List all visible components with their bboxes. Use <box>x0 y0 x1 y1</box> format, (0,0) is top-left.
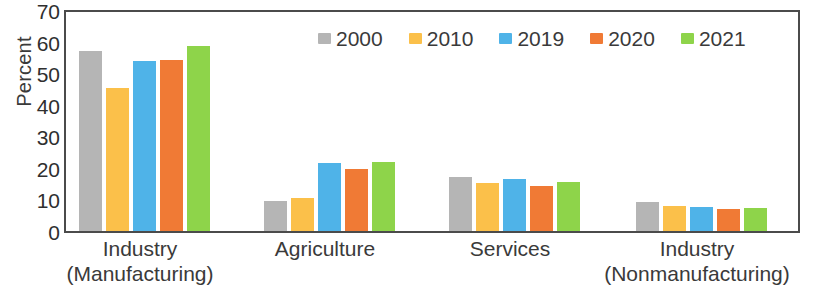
legend-label: 2019 <box>517 28 564 49</box>
bar-2010-0[interactable] <box>106 88 129 231</box>
legend-item-2010[interactable]: 2010 <box>409 28 474 49</box>
x-category-label: Services <box>470 236 551 261</box>
bar-2021-0[interactable] <box>187 46 210 231</box>
y-tick-label: 70 <box>26 1 60 22</box>
bar-2019-1[interactable] <box>318 163 341 231</box>
legend-swatch-icon <box>681 33 694 44</box>
y-tick-label: 10 <box>26 190 60 211</box>
bar-2010-1[interactable] <box>291 198 314 231</box>
x-category-label: Industry(Nonmanufacturing) <box>604 236 790 286</box>
y-tick-label: 60 <box>26 32 60 53</box>
legend-item-2021[interactable]: 2021 <box>681 28 746 49</box>
legend-swatch-icon <box>590 33 603 44</box>
legend-label: 2021 <box>699 28 746 49</box>
bar-2019-2[interactable] <box>503 179 526 231</box>
x-category-label: Agriculture <box>275 236 375 261</box>
bar-2020-1[interactable] <box>345 169 368 231</box>
legend-label: 2000 <box>336 28 383 49</box>
bar-group <box>77 14 212 231</box>
legend-label: 2010 <box>427 28 474 49</box>
y-tick-label: 20 <box>26 158 60 179</box>
bar-2020-2[interactable] <box>530 186 553 231</box>
x-category-label: Industry(Manufacturing) <box>66 236 213 286</box>
bar-2010-2[interactable] <box>476 183 499 231</box>
bar-2019-0[interactable] <box>133 61 156 231</box>
legend-item-2020[interactable]: 2020 <box>590 28 655 49</box>
bar-2020-0[interactable] <box>160 60 183 231</box>
bar-2021-3[interactable] <box>744 208 767 231</box>
bar-2021-1[interactable] <box>372 162 395 231</box>
bar-2000-2[interactable] <box>449 177 472 231</box>
x-category-label-line1: Services <box>470 237 551 260</box>
legend-swatch-icon <box>318 33 331 44</box>
legend-swatch-icon <box>409 33 422 44</box>
y-tick-label: 0 <box>26 222 60 243</box>
bar-2010-3[interactable] <box>663 206 686 231</box>
x-category-label-line1: Industry <box>660 237 735 260</box>
bar-2020-3[interactable] <box>717 209 740 231</box>
x-axis-category-labels: Industry(Manufacturing)AgricultureServic… <box>64 236 800 294</box>
y-axis-tick-labels: 706050403020100 <box>26 0 60 294</box>
y-tick-label: 40 <box>26 95 60 116</box>
legend-item-2019[interactable]: 2019 <box>499 28 564 49</box>
bar-2000-3[interactable] <box>636 202 659 231</box>
bar-2000-0[interactable] <box>79 51 102 231</box>
legend-swatch-icon <box>499 33 512 44</box>
bar-2021-2[interactable] <box>557 182 580 231</box>
legend: 20002010201920202021 <box>318 28 746 49</box>
bar-2019-3[interactable] <box>690 207 713 231</box>
x-category-label-line2: (Nonmanufacturing) <box>604 261 790 286</box>
bar-2000-1[interactable] <box>264 201 287 231</box>
legend-item-2000[interactable]: 2000 <box>318 28 383 49</box>
y-tick-label: 30 <box>26 127 60 148</box>
bar-chart: Percent 706050403020100 2000201020192020… <box>0 0 819 294</box>
x-category-label-line1: Industry <box>103 237 178 260</box>
x-category-label-line2: (Manufacturing) <box>66 261 213 286</box>
legend-label: 2020 <box>608 28 655 49</box>
y-tick-label: 50 <box>26 64 60 85</box>
x-category-label-line1: Agriculture <box>275 237 375 260</box>
